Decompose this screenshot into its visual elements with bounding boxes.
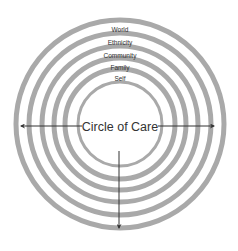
center-label: Circle of Care: [82, 120, 158, 134]
label-self: Self: [114, 75, 125, 82]
label-family: Family: [110, 64, 130, 72]
label-ethnicity: Ethnicity: [108, 39, 133, 47]
label-community: Community: [104, 52, 138, 60]
circle-of-care-diagram: World Ethnicity Community Family Self Ci…: [0, 0, 238, 251]
label-world: World: [112, 26, 129, 33]
